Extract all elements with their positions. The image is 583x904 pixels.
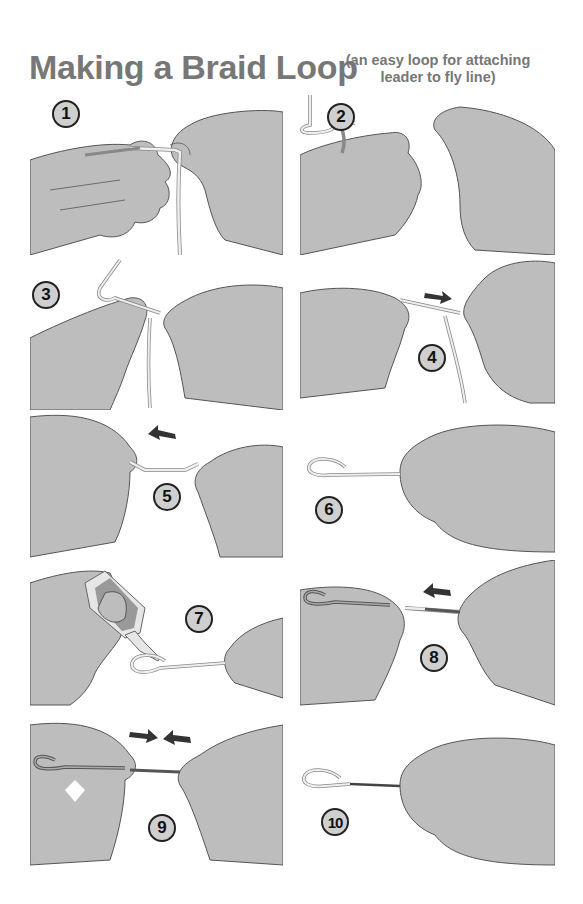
step-3-panel: 3 <box>30 258 283 410</box>
step-number-badge: 6 <box>315 496 343 524</box>
arrow-right-icon <box>129 729 158 743</box>
hands-illustration-icon <box>300 720 555 870</box>
arrow-left-icon <box>163 730 191 745</box>
page-subtitle: (an easy loop for attaching leader to fl… <box>318 52 558 86</box>
step-9-panel: 9 <box>30 720 283 870</box>
step-1-panel: 1 <box>30 100 283 255</box>
arrow-left-icon <box>423 583 451 598</box>
subtitle-line-2: leader to fly line) <box>318 69 558 86</box>
step-2-panel: 2 <box>300 95 555 255</box>
step-5-panel: 5 <box>30 412 283 560</box>
step-7-panel: 7 <box>30 563 283 715</box>
step-number-badge: 5 <box>153 483 181 511</box>
step-8-panel: 8 <box>300 560 555 710</box>
step-10-panel: 10 <box>300 720 555 870</box>
arrow-left-icon <box>148 425 176 440</box>
hands-illustration-icon <box>30 258 283 410</box>
step-number-badge: 3 <box>32 281 60 309</box>
step-6-panel: 6 <box>300 412 555 560</box>
subtitle-line-1: (an easy loop for attaching <box>318 52 558 69</box>
hands-illustration-icon <box>300 412 555 560</box>
arrow-right-icon <box>424 291 452 304</box>
step-4-panel: 4 <box>300 258 555 410</box>
hands-illustration-icon <box>300 560 555 710</box>
step-number-badge: 10 <box>321 808 349 836</box>
hands-illustration-icon <box>300 258 555 410</box>
step-number-badge: 9 <box>148 814 176 842</box>
hands-illustration-icon <box>30 563 283 715</box>
header: Making a Braid Loop (an easy loop for at… <box>0 48 583 98</box>
step-number-badge: 7 <box>185 605 213 633</box>
step-number-badge: 8 <box>420 644 448 672</box>
hands-illustration-icon <box>30 720 283 870</box>
step-number-badge: 2 <box>327 103 355 131</box>
page-title: Making a Braid Loop <box>29 48 358 87</box>
step-number-badge: 1 <box>52 100 80 128</box>
step-number-badge: 4 <box>418 344 446 372</box>
